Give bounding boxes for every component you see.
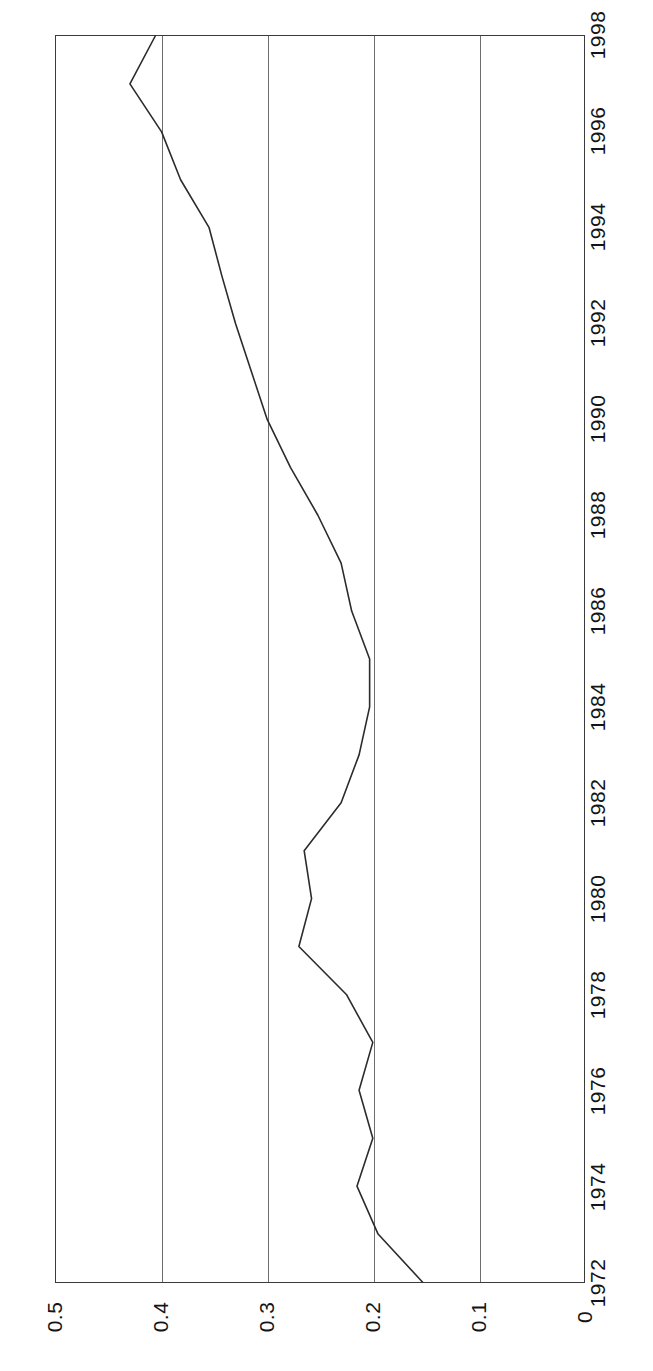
year-tick-label: 1972 [587, 1240, 609, 1326]
year-tick-label: 1996 [587, 88, 609, 174]
year-tick-label: 1988 [587, 472, 609, 558]
year-tick-label: 1982 [587, 760, 609, 846]
year-tick-label: 1998 [587, 0, 609, 78]
year-tick-label: 1994 [587, 184, 609, 270]
value-tick-label: 0.4 [150, 1282, 172, 1352]
year-tick-label: 1974 [587, 1144, 609, 1230]
year-tick-label: 1992 [587, 280, 609, 366]
data-series-line [56, 36, 584, 1282]
year-tick-label: 1978 [587, 952, 609, 1038]
value-tick-label: 0.1 [468, 1282, 490, 1352]
value-tick-label: 0.5 [44, 1282, 66, 1352]
year-tick-label: 1976 [587, 1048, 609, 1134]
year-tick-label: 1984 [587, 664, 609, 750]
value-tick-label: 0.3 [256, 1282, 278, 1352]
year-tick-label: 1980 [587, 856, 609, 942]
chart-container: 0.50.40.30.20.10 19721974197619781980198… [0, 0, 653, 1371]
year-tick-label: 1986 [587, 568, 609, 654]
year-tick-label: 1990 [587, 376, 609, 462]
value-tick-label: 0.2 [362, 1282, 384, 1352]
series-polyline [130, 36, 423, 1282]
plot-area [55, 35, 585, 1283]
